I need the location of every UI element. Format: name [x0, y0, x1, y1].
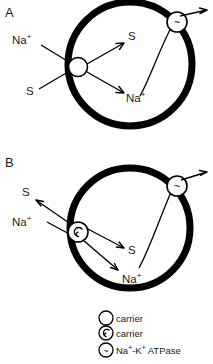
transport-diagram-figure: A ~ Na+ S S Na+ B — [0, 0, 213, 364]
panel-a-substrate-outside-label: S — [26, 85, 34, 97]
panel-b-label: B — [5, 155, 14, 170]
panel-a-carrier-icon — [69, 58, 88, 77]
panel-a-substrate-inside-label: S — [128, 30, 136, 42]
legend-item-carrier-open: carrier — [99, 311, 143, 325]
legend-label-carrier-open: carrier — [116, 313, 143, 324]
panel-b-substrate-inside-label: S — [128, 244, 136, 256]
legend-label-atpase: Na+-K+ ATPase — [116, 344, 181, 356]
legend-atpase-glyph: ~ — [103, 346, 108, 356]
panel-a-atpase-glyph: ~ — [174, 16, 180, 28]
open-circle-icon — [99, 311, 113, 325]
panel-b-substrate-outside-label: S — [22, 186, 30, 198]
legend-item-carrier-spiral: carrier — [99, 326, 143, 340]
panel-b-atpase-glyph: ~ — [174, 180, 180, 192]
legend-item-atpase: ~ Na+-K+ ATPase — [99, 343, 181, 357]
legend-label-carrier-spiral: carrier — [116, 328, 143, 339]
panel-a-label: A — [5, 5, 14, 20]
